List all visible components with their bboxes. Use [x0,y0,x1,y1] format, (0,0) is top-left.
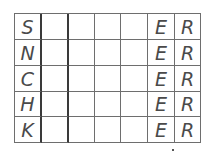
cell-r2-c5: E [148,66,175,92]
cell-r0-c3[interactable] [95,14,121,40]
cell-r3-c0: H [15,92,42,117]
cell-r2-c4[interactable] [121,66,148,92]
cell-r0-c4[interactable] [121,14,148,40]
cell-r0-c5: E [148,14,175,40]
cell-r4-c4[interactable] [121,117,148,143]
cell-r3-c4[interactable] [121,92,148,117]
cell-r4-c5: E [148,117,175,143]
cell-r1-c0: N [15,40,42,66]
cell-r1-c2[interactable] [69,40,95,66]
cell-r1-c5: E [148,40,175,66]
cell-r2-c6: R [175,66,201,92]
cell-r4-c3[interactable] [95,117,121,143]
cell-r2-c2[interactable] [69,66,95,92]
cell-r2-c1[interactable] [42,66,69,92]
cell-r1-c3[interactable] [95,40,121,66]
cell-r1-c1[interactable] [42,40,69,66]
cell-r3-c3[interactable] [95,92,121,117]
stray-mark [172,149,174,151]
cell-r4-c2[interactable] [69,117,95,143]
cell-r4-c0: K [15,117,42,143]
word-puzzle-grid: S E R N E R C E R H E R K E R [14,13,201,143]
cell-r0-c6: R [175,14,201,40]
cell-r0-c1[interactable] [42,14,69,40]
cell-r2-c3[interactable] [95,66,121,92]
cell-r3-c6: R [175,92,201,117]
cell-r0-c2[interactable] [69,14,95,40]
cell-r3-c2[interactable] [69,92,95,117]
cell-r1-c4[interactable] [121,40,148,66]
cell-r1-c6: R [175,40,201,66]
cell-r4-c1[interactable] [42,117,69,143]
cell-r3-c5: E [148,92,175,117]
cell-r3-c1[interactable] [42,92,69,117]
cell-r0-c0: S [15,14,42,40]
cell-r4-c6: R [175,117,201,143]
cell-r2-c0: C [15,66,42,92]
